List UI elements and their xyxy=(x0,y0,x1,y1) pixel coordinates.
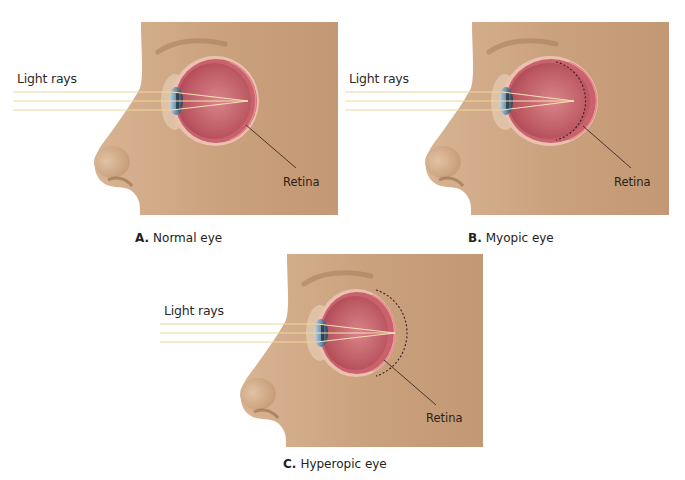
light-rays-label: Light rays xyxy=(164,303,224,318)
light-rays-label: Light rays xyxy=(17,71,77,86)
panel-normal-eye: Light rays Retina A.Normal eye xyxy=(0,0,345,250)
caption-text: Hyperopic eye xyxy=(300,457,386,471)
light-rays-label: Light rays xyxy=(349,71,409,86)
retina-label: Retina xyxy=(614,175,651,189)
retina-label: Retina xyxy=(426,411,463,425)
myopic-eye-illustration xyxy=(331,0,685,250)
retina-label: Retina xyxy=(283,175,320,189)
hyperopic-eye-illustration xyxy=(146,232,491,480)
normal-eye-illustration xyxy=(0,0,345,250)
panel-hyperopic-eye: Light rays Retina C.Hyperopic eye xyxy=(146,232,491,480)
caption-text: Myopic eye xyxy=(486,231,554,245)
caption-hyperopic-eye: C.Hyperopic eye xyxy=(283,457,387,471)
caption-letter: C. xyxy=(283,457,296,471)
panel-myopic-eye: Light rays Retina B.Myopic eye xyxy=(331,0,685,250)
